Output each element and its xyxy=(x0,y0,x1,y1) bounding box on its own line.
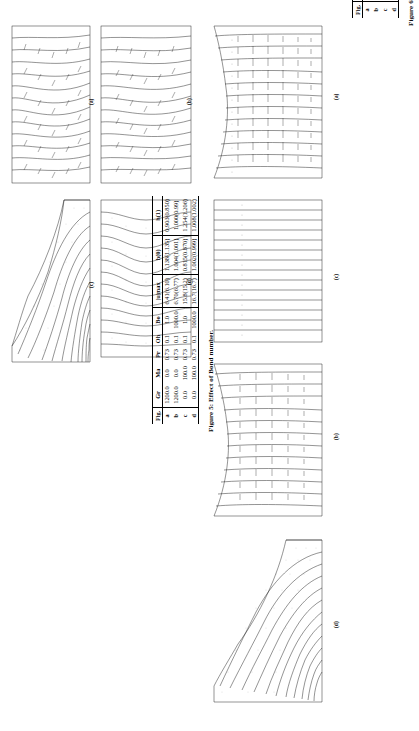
panel-figure5-a xyxy=(8,22,94,187)
panel-figure5-c xyxy=(8,196,94,366)
panel-label-figure6-a: (a) xyxy=(333,100,339,106)
cell-fig: b xyxy=(372,1,381,18)
table-row: b 14.0 0.0 21.9 1.0 0.0 0.0795(0.0731) 1… xyxy=(372,0,381,18)
cell-h1: 1.000(0.99) xyxy=(172,196,181,235)
cell-bo: 1000.0 xyxy=(189,308,198,332)
cell-gr: 14.0 xyxy=(362,0,371,1)
vector-field-figure5-c xyxy=(8,196,94,366)
caption-figure-5: Figure 5: Effect of Bond number. xyxy=(207,424,309,442)
cell-pr: 0.73 xyxy=(172,346,181,363)
vector-field-a xyxy=(208,22,328,182)
cell-ma: 0.0 xyxy=(172,363,181,383)
panel-label-figure5-b: (b) xyxy=(186,105,193,111)
cell-ma: 100.0 xyxy=(189,363,198,383)
table-row: c 0.0 100.0 0.73 0.1 1.0 15.8(15.2) 0.81… xyxy=(180,196,189,424)
cell-fig: c xyxy=(180,407,189,424)
cell-gr: 14.0 xyxy=(372,0,381,1)
figure-group-figure-5: (b) xyxy=(0,0,200,731)
vector-field-d xyxy=(208,536,328,706)
cell-h1: 0.903(0.850) xyxy=(162,196,171,235)
col-gr: Gr xyxy=(353,0,363,1)
table-row: d 0.0 100.0 0.73 0.1 1000.0 16.7(16.7) 1… xyxy=(189,196,198,424)
cell-h0: 0.815(0.870) xyxy=(180,235,189,275)
table-row: c 0.0 2.5 0.73 1.0 0.0 0.486(0.418) 0.55… xyxy=(380,0,389,18)
cell-fig: a xyxy=(162,407,171,424)
cell-h0: 1.004(1.001) xyxy=(172,235,181,275)
panel-figure6-a xyxy=(208,22,328,182)
cell-oh: 0.1 xyxy=(189,332,198,346)
cell-fig: a xyxy=(362,1,371,18)
cell-fig: c xyxy=(380,1,389,18)
data-table-figure-6: Fig. Gr Ma Pr Oh Bo |u|max h(0) h(1) xyxy=(352,0,399,18)
cell-gr: 0.0 xyxy=(180,383,189,407)
cell-ma: 100.0 xyxy=(180,363,189,383)
cell-oh: 0.1 xyxy=(162,332,171,346)
panel-figure6-c xyxy=(208,196,328,346)
cell-bo: 1.0 xyxy=(162,308,171,332)
table-header-row: Fig. Gr Ma Pr Oh Bo |u|max h(0) h(1) xyxy=(353,0,363,18)
cell-h0: 1.002(0.999) xyxy=(189,235,198,275)
scanned-paper-page: (a) xyxy=(0,0,419,731)
col-gr: Gr xyxy=(153,383,163,407)
cell-gr: 0.0 xyxy=(380,0,389,1)
cell-gr: 1200.0 xyxy=(172,383,181,407)
cell-ma: 0.0 xyxy=(162,363,171,383)
cell-h0: 1.138(1.135) xyxy=(162,235,171,275)
data-table-figure-5: Fig. Gr Ma Pr Oh Bo |u|max h(0) h(1) xyxy=(152,196,199,424)
col-oh: Oh xyxy=(153,332,163,346)
col-fig: Fig. xyxy=(353,1,363,18)
panel-label-figure6-d: (d) xyxy=(333,628,340,634)
cell-umax: 6.70(6.77) xyxy=(172,275,181,308)
table-row: d 0.0 2.5 21.9 1.0 0.0 0.0101 0.984 1.01… xyxy=(389,0,398,18)
panel-figure5-b xyxy=(96,22,196,187)
cell-bo: 1.0 xyxy=(180,308,189,332)
panel-figure6-d xyxy=(208,536,328,706)
col-h0: h(0) xyxy=(153,235,163,275)
col-bo: Bo xyxy=(153,308,163,332)
cell-umax: 16.7(16.7) xyxy=(189,275,198,308)
cell-umax: 6.41(6.10) xyxy=(162,275,171,308)
figure-group-figure-6: (a) xyxy=(200,0,419,731)
table-row: a 14.0 0.0 0.73 1.0 0.0 0.0818(0.0785) 1… xyxy=(362,0,371,18)
table-header-row: Fig. Gr Ma Pr Oh Bo |u|max h(0) h(1) xyxy=(153,196,163,424)
cell-pr: 0.73 xyxy=(189,346,198,363)
panel-label-figure6-b: (b) xyxy=(333,440,340,446)
caption-figure-6: Figure 6: Effect of Prandtl number. xyxy=(407,18,419,36)
table-row: b 1200.0 0.0 0.73 0.1 1000.0 6.70(6.77) … xyxy=(172,196,181,424)
col-pr: Pr xyxy=(153,346,163,363)
vector-field-figure5-b xyxy=(96,22,196,187)
panel-label-figure5-c: (c) xyxy=(88,288,94,294)
cell-pr: 0.73 xyxy=(180,346,189,363)
cell-pr: 0.73 xyxy=(162,346,171,363)
cell-gr: 0.0 xyxy=(189,383,198,407)
col-h1: h(1) xyxy=(153,196,163,235)
panel-label-figure6-c: (c) xyxy=(333,280,339,286)
cell-fig: b xyxy=(172,407,181,424)
cell-gr: 1200.0 xyxy=(162,383,171,407)
cell-umax: 15.8(15.2) xyxy=(180,275,189,308)
vector-field-c xyxy=(208,196,328,346)
table-row: a 1200.0 0.0 0.73 0.1 1.0 6.41(6.10) 1.1… xyxy=(162,196,171,424)
cell-h1: 1.008(1.002) xyxy=(189,196,198,235)
cell-gr: 0.0 xyxy=(389,0,398,1)
cell-oh: 0.1 xyxy=(172,332,181,346)
cell-oh: 0.1 xyxy=(180,332,189,346)
col-ma: Ma xyxy=(153,363,163,383)
cell-bo: 1000.0 xyxy=(172,308,181,332)
cell-h1: 1.254(1.206) xyxy=(180,196,189,235)
cell-fig: d xyxy=(389,1,398,18)
cell-fig: d xyxy=(189,407,198,424)
col-fig: Fig. xyxy=(153,407,163,424)
col-umax: |u|max xyxy=(153,275,163,308)
vector-field-figure5-a xyxy=(8,22,94,187)
panel-label-figure5-a: (a) xyxy=(88,105,94,111)
